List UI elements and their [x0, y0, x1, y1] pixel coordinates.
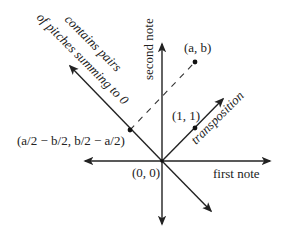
a-b-label: (a, b) [184, 40, 211, 55]
sum-zero-line-lower [162, 161, 211, 211]
diagram-canvas: (a, b) (1, 1) (a/2 − b/2, b/2 − a/2) (0,… [0, 0, 287, 235]
first-note-label: first note [213, 166, 260, 181]
projection-label: (a/2 − b/2, b/2 − a/2) [17, 133, 125, 148]
one-one-label: (1, 1) [172, 108, 200, 123]
origin-dot [160, 159, 164, 163]
second-note-label: second note [141, 18, 156, 80]
projection-point-dot [128, 128, 133, 133]
origin-label: (0, 0) [132, 165, 160, 180]
a-b-point-dot [193, 60, 198, 65]
